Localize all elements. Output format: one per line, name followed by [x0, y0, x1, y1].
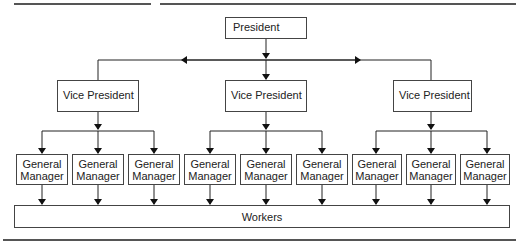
vice-president-label: Vice President — [63, 89, 138, 101]
general-manager-box: General Manager — [128, 154, 180, 185]
gm-line1: General — [461, 158, 509, 170]
gm-line1: General — [353, 158, 401, 170]
gm-line2: Manager — [17, 170, 67, 182]
gm-line2: Manager — [461, 170, 509, 182]
gm-line1: General — [241, 158, 291, 170]
gm-line1: General — [297, 158, 347, 170]
gm-line1: General — [129, 158, 179, 170]
gm-line1: General — [407, 158, 455, 170]
vice-president-label: Vice President — [399, 89, 471, 101]
general-manager-box: General Manager — [240, 154, 292, 185]
vice-president-box: Vice President — [57, 80, 139, 112]
president-box: President — [225, 17, 307, 39]
general-manager-box: General Manager — [460, 154, 510, 185]
gm-line2: Manager — [353, 170, 401, 182]
general-manager-box: General Manager — [352, 154, 402, 185]
vice-president-box: Vice President — [393, 80, 472, 112]
vice-president-label: Vice President — [231, 89, 306, 101]
gm-line2: Manager — [73, 170, 123, 182]
workers-box: Workers — [14, 205, 510, 228]
workers-label: Workers — [15, 211, 509, 223]
gm-line1: General — [73, 158, 123, 170]
general-manager-box: General Manager — [406, 154, 456, 185]
president-label: President — [233, 21, 306, 33]
general-manager-box: General Manager — [296, 154, 348, 185]
gm-line2: Manager — [297, 170, 347, 182]
general-manager-box: General Manager — [72, 154, 124, 185]
gm-line2: Manager — [407, 170, 455, 182]
general-manager-box: General Manager — [184, 154, 236, 185]
vice-president-box: Vice President — [225, 80, 307, 112]
gm-line2: Manager — [185, 170, 235, 182]
gm-line2: Manager — [129, 170, 179, 182]
gm-line2: Manager — [241, 170, 291, 182]
general-manager-box: General Manager — [16, 154, 68, 185]
gm-line1: General — [185, 158, 235, 170]
gm-line1: General — [17, 158, 67, 170]
